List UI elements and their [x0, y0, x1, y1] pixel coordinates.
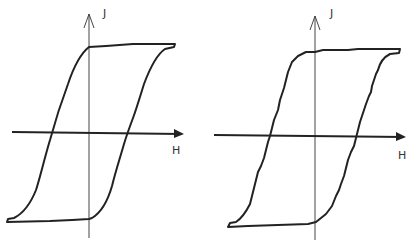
- h-axis-arrow-icon: [396, 132, 406, 141]
- left-hysteresis-panel: J H: [0, 0, 208, 244]
- right-hysteresis-graph: [208, 0, 416, 244]
- h-axis-arrow-icon: [174, 129, 184, 138]
- right-h-axis-label: H: [398, 150, 406, 161]
- right-j-axis-label: J: [330, 8, 333, 19]
- left-h-axis-label: H: [172, 145, 180, 156]
- right-hysteresis-panel: J H: [208, 0, 416, 244]
- left-j-axis-label: J: [103, 8, 106, 19]
- h-axis: [214, 135, 404, 137]
- left-hysteresis-graph: [0, 0, 208, 244]
- hysteresis-loop: [228, 49, 400, 227]
- h-axis: [12, 132, 182, 134]
